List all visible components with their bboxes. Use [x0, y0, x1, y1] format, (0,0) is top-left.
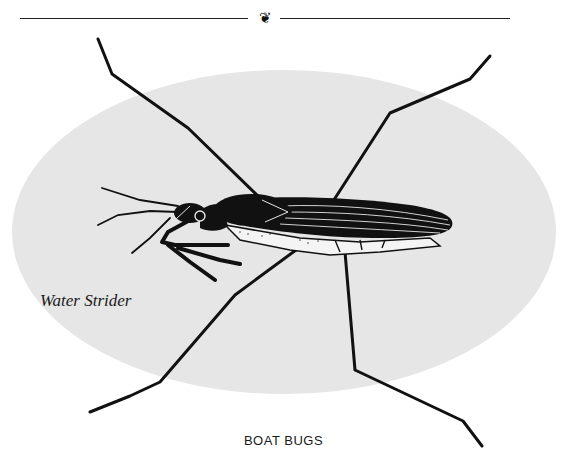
species-label: Water Strider	[40, 291, 131, 311]
eye	[195, 211, 205, 221]
book-page: ❦	[0, 0, 567, 459]
figure-caption: BOAT BUGS	[0, 433, 567, 448]
oval-backdrop	[12, 70, 556, 394]
water-strider-illustration	[0, 0, 567, 459]
